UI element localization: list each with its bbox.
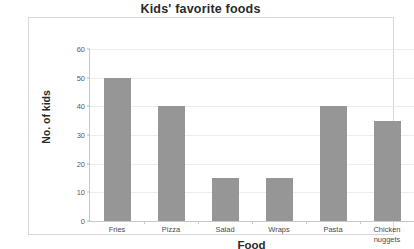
y-axis-tick-mark (87, 77, 90, 78)
gridline (90, 49, 414, 50)
y-axis-tick-mark (87, 221, 90, 222)
bar-pizza (158, 106, 185, 221)
gridline (90, 164, 414, 165)
bar-chicken-nuggets (374, 121, 401, 221)
y-axis-tick-mark (87, 135, 90, 136)
x-axis-category-label: Wraps (252, 225, 306, 235)
y-axis-tick-mark (87, 163, 90, 164)
x-axis-category-label: Pizza (144, 225, 198, 235)
bar-pasta (320, 106, 347, 221)
y-axis-tick-label: 50 (77, 73, 85, 82)
x-axis-category-label: Fries (90, 225, 144, 235)
y-axis-tick-mark (87, 192, 90, 193)
y-axis-tick-label: 20 (77, 159, 85, 168)
y-axis-tick-mark (87, 49, 90, 50)
gridline (90, 135, 414, 136)
x-axis-category-label: Pasta (306, 225, 360, 235)
x-axis-tick-mark (252, 221, 253, 224)
chart-frame: No. of kids 6050403020100FriesPizzaSalad… (28, 17, 394, 235)
chart-title: Kids' favorite foods (0, 2, 401, 16)
bar-fries (104, 78, 131, 221)
y-axis-title: No. of kids (40, 82, 52, 152)
gridline (90, 78, 414, 79)
plot-area: 6050403020100FriesPizzaSaladWrapsPastaCh… (89, 49, 414, 222)
y-axis-tick-label: 60 (77, 45, 85, 54)
y-axis-tick-label: 40 (77, 102, 85, 111)
bar-salad (212, 178, 239, 221)
x-axis-tick-mark (144, 221, 145, 224)
gridline (90, 106, 414, 107)
x-axis-title: Food (89, 239, 414, 249)
y-axis-tick-mark (87, 106, 90, 107)
x-axis-tick-mark (198, 221, 199, 224)
y-axis-tick-label: 30 (77, 131, 85, 140)
bar-wraps (266, 178, 293, 221)
y-axis-tick-label: 10 (77, 188, 85, 197)
x-axis-category-label: Salad (198, 225, 252, 235)
y-axis-tick-label: 0 (81, 217, 85, 226)
gridline (90, 192, 414, 193)
x-axis-tick-mark (306, 221, 307, 224)
x-axis-tick-mark (360, 221, 361, 224)
